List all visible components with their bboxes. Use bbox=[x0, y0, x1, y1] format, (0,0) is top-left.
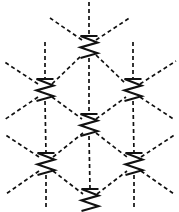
lattice-figure bbox=[0, 0, 179, 212]
lattice-canvas bbox=[0, 0, 179, 212]
